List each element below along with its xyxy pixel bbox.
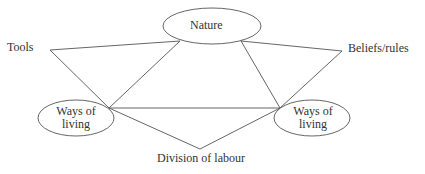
edge-nature-ways-left bbox=[109, 41, 180, 108]
edge-ways-left-division bbox=[109, 108, 200, 149]
tools-label: Tools bbox=[7, 41, 34, 54]
edge-nature-ways-right bbox=[241, 41, 280, 108]
beliefs-rules-label: Beliefs/rules bbox=[348, 42, 409, 55]
ways-left-label: Ways of living bbox=[46, 105, 106, 131]
ways-left-line2: living bbox=[46, 118, 106, 131]
edge-nature-beliefs bbox=[241, 41, 342, 51]
nature-label: Nature bbox=[190, 19, 223, 32]
ways-right-label: Ways of living bbox=[283, 105, 343, 131]
edge-beliefs-ways-right bbox=[280, 51, 342, 108]
ways-right-line2: living bbox=[283, 118, 343, 131]
edge-ways-right-division bbox=[200, 108, 280, 149]
division-of-labour-label: Division of labour bbox=[157, 152, 245, 165]
edge-tools-ways-left bbox=[50, 50, 109, 108]
edge-tools-nature bbox=[50, 41, 180, 50]
